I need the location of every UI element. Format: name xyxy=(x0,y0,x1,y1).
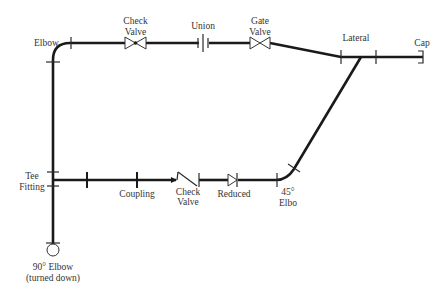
label-gate-valve-2: Valve xyxy=(249,27,271,37)
label-check-valve-top-1: Check xyxy=(123,16,148,26)
label-check-valve-bottom-2: Valve xyxy=(177,197,199,207)
label-elbow90-2: (turned down) xyxy=(26,273,80,284)
pipe-network xyxy=(53,43,423,244)
check-valve-bottom-symbol xyxy=(171,172,199,187)
elbow-90-turned-down-symbol xyxy=(46,243,60,256)
label-union: Union xyxy=(191,21,215,31)
label-tee-2: Fitting xyxy=(19,182,45,192)
label-coupling: Coupling xyxy=(119,189,155,199)
pipe-vertical-riser xyxy=(53,43,125,244)
gate-valve-symbol xyxy=(250,37,270,49)
label-check-valve-top-2: Valve xyxy=(125,27,147,37)
piping-diagram: Elbow Check Valve Union Gate Valve Later… xyxy=(0,0,447,298)
label-lateral: Lateral xyxy=(343,33,370,43)
label-elbow90-1: 90° Elbow xyxy=(33,262,74,272)
label-cap: Cap xyxy=(414,38,430,48)
pipe-lateral-branch xyxy=(276,57,361,180)
check-valve-top-symbol xyxy=(125,37,146,49)
union-symbol xyxy=(198,34,208,52)
label-gate-valve-1: Gate xyxy=(251,16,269,26)
reducer-symbol xyxy=(228,173,237,187)
label-tee-1: Tee xyxy=(25,171,39,181)
label-check-valve-bottom-1: Check xyxy=(176,187,201,197)
label-elbow: Elbow xyxy=(34,38,59,48)
label-elbow45-1: 45° xyxy=(281,187,295,197)
label-reduced: Reduced xyxy=(217,189,250,199)
pipe-top-slope xyxy=(270,43,341,57)
label-elbow45-2: Elbo xyxy=(279,198,297,208)
